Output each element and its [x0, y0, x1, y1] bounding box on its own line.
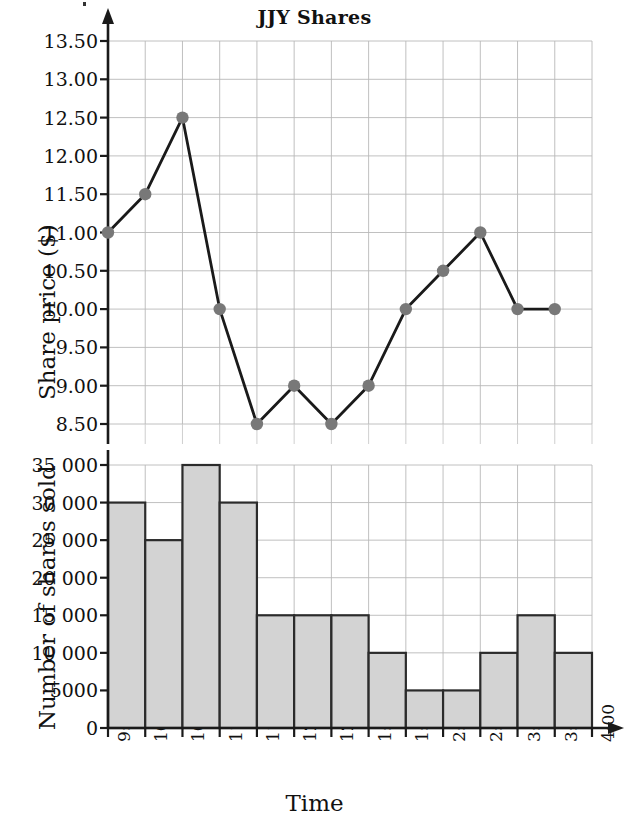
- bar: [220, 503, 257, 728]
- axis-arrow-x: [608, 722, 624, 734]
- data-point-marker: [325, 418, 337, 430]
- share-chart-figure: JJY Shares Share price ($) Number of sha…: [0, 0, 629, 823]
- data-point-marker: [213, 303, 225, 315]
- plot-canvas: [0, 0, 629, 823]
- bar: [369, 653, 406, 728]
- bar: [555, 653, 592, 728]
- axis-arrow-y-top: [102, 8, 114, 24]
- data-point-marker: [288, 380, 300, 392]
- bar: [145, 540, 182, 728]
- bar: [294, 615, 331, 728]
- data-point-marker: [474, 226, 486, 238]
- bar: [406, 690, 443, 728]
- data-point-marker: [362, 380, 374, 392]
- bar: [331, 615, 368, 728]
- bar: [443, 690, 480, 728]
- data-point-marker: [102, 226, 114, 238]
- data-point-marker: [511, 303, 523, 315]
- data-point-marker: [251, 418, 263, 430]
- bar: [182, 465, 219, 728]
- data-point-marker: [176, 111, 188, 123]
- data-point-marker: [549, 303, 561, 315]
- bar: [518, 615, 555, 728]
- bar: [257, 615, 294, 728]
- bar-series-shares-sold: [108, 465, 592, 728]
- bar: [108, 503, 145, 728]
- data-point-marker: [437, 265, 449, 277]
- grid-lines-top-chart: [108, 41, 592, 444]
- data-point-marker: [400, 303, 412, 315]
- bar: [480, 653, 517, 728]
- data-point-marker: [139, 188, 151, 200]
